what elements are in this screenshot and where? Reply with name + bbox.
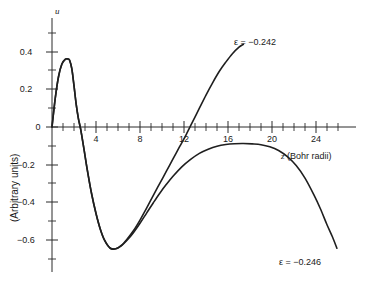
y-tick-label: −0.2: [17, 160, 35, 170]
y-tick-label: −0.6: [17, 235, 35, 245]
y-tick-label: 0.4: [20, 47, 33, 57]
x-axis-label: (Bohr radii): [287, 151, 332, 161]
x-tick-label: 16: [223, 134, 233, 144]
y-tick-label: −0.4: [17, 197, 35, 207]
y-tick-label: 0.2: [20, 84, 33, 94]
wavefunction-plot: u (Arbitrary units) 0.4 0.2 0 −0.2 −0.4 …: [0, 0, 372, 296]
x-tick-label: 20: [267, 134, 277, 144]
curve-label-lower: ε = −0.246: [279, 257, 321, 267]
y-axis-symbol: u: [55, 6, 60, 16]
plot-background: [0, 0, 372, 296]
x-tick-label: 4: [93, 134, 98, 144]
x-tick-label: 24: [311, 134, 321, 144]
curve-label-upper: ε = −0.242: [234, 37, 276, 47]
y-tick-label: 0: [35, 122, 40, 132]
x-tick-label: 8: [137, 134, 142, 144]
